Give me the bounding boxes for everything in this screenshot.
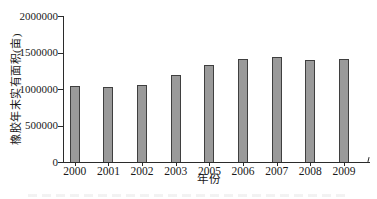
y-tick-mark [58, 16, 63, 17]
y-tick-label: 2000000 [14, 10, 58, 23]
x-tick-label: 2000 [57, 165, 93, 177]
rubber-area-bar-chart-figure: 橡胶年末实有面积(亩) 0500000100000015000002000000… [0, 0, 377, 199]
plot-area: 0500000100000015000002000000200020012002… [0, 0, 377, 199]
y-tick-label: 1000000 [14, 83, 58, 96]
cropped-caption-remnant [28, 194, 350, 197]
y-axis-line [63, 16, 64, 163]
bar-2002 [137, 85, 147, 162]
bar-2000 [70, 86, 80, 162]
x-tick-label: 2001 [90, 165, 126, 177]
bar-2006 [238, 59, 248, 162]
y-tick-mark [58, 126, 63, 127]
y-tick-mark [58, 89, 63, 90]
bar-2005 [204, 65, 214, 162]
x-tick-label: 2009 [326, 165, 362, 177]
y-tick-mark [58, 162, 63, 163]
y-tick-label: 500000 [14, 119, 58, 132]
bar-2003 [171, 75, 181, 162]
bar-2007 [272, 57, 282, 162]
bar-2001 [103, 87, 113, 162]
bar-2008 [305, 60, 315, 162]
x-axis-title: 年份 [139, 173, 279, 186]
y-tick-label: 1500000 [14, 46, 58, 59]
x-tick-label: 2008 [292, 165, 328, 177]
bar-2009 [339, 59, 349, 162]
y-tick-mark [58, 53, 63, 54]
y-tick-label: 0 [14, 156, 58, 169]
